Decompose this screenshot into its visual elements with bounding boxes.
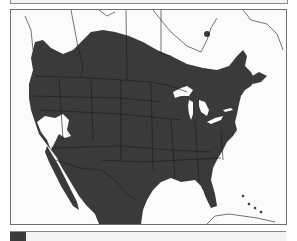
legend-swatch	[10, 232, 26, 241]
legend-bar	[10, 231, 286, 241]
range-map	[10, 9, 287, 225]
north-america-map	[11, 10, 286, 224]
top-caption-box	[10, 0, 288, 4]
